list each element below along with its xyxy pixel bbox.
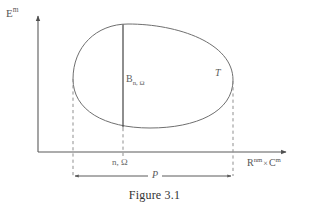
- set-region-curve: [73, 24, 233, 128]
- measure-label: P: [148, 170, 162, 180]
- chord-label: Bn, Ω: [126, 74, 145, 84]
- x-axis-label-base-2: C: [269, 157, 276, 168]
- chord-label-subscript: n, Ω: [133, 79, 145, 86]
- x-axis-label-exponent-2: m: [276, 156, 281, 163]
- x-axis-label: Rnm×Cm: [247, 158, 281, 168]
- set-region-label: T: [215, 68, 221, 78]
- figure-container: Em Rnm×Cm T Bn, Ω n, Ω P Figure 3.1: [0, 0, 309, 209]
- x-axis-tick-label: n, Ω: [112, 158, 128, 167]
- x-axis-label-base-1: R: [247, 157, 254, 168]
- y-axis-label: Em: [6, 8, 19, 19]
- figure-caption: Figure 3.1: [0, 188, 309, 203]
- y-axis-label-exponent: m: [13, 5, 19, 14]
- y-axis-label-base: E: [6, 7, 13, 19]
- chord-label-base: B: [126, 73, 133, 84]
